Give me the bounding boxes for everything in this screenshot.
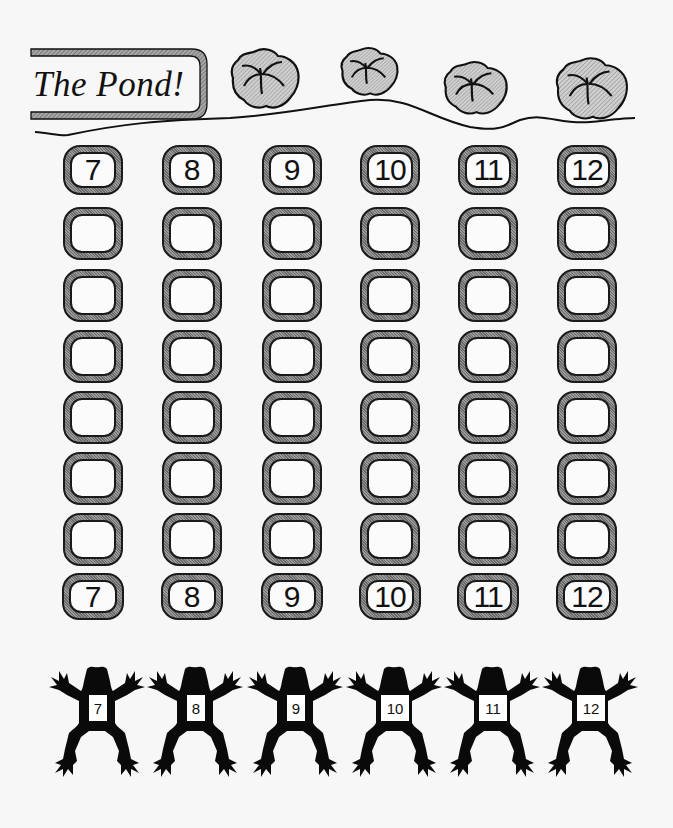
track-space-inner bbox=[564, 398, 610, 437]
track-space[interactable] bbox=[557, 207, 617, 260]
track-space-inner bbox=[169, 276, 215, 315]
track-space-inner bbox=[70, 398, 116, 437]
track-space[interactable] bbox=[262, 330, 322, 383]
track-space[interactable] bbox=[360, 513, 420, 566]
track-space[interactable] bbox=[63, 452, 123, 505]
track-start-label-11[interactable]: 11 bbox=[458, 145, 518, 195]
track-space-inner bbox=[169, 398, 215, 437]
track-space-inner bbox=[367, 398, 413, 437]
track-space-inner: 8 bbox=[169, 152, 215, 188]
track-space[interactable] bbox=[162, 330, 222, 383]
track-space[interactable] bbox=[63, 513, 123, 566]
frog-piece-11[interactable]: 11 bbox=[442, 665, 542, 780]
track-space[interactable] bbox=[162, 513, 222, 566]
track-space-inner bbox=[70, 459, 116, 498]
track-space-inner bbox=[564, 520, 610, 559]
track-end-label-12[interactable]: 12 bbox=[556, 573, 618, 620]
track-space-inner bbox=[269, 214, 315, 253]
track-space[interactable] bbox=[262, 207, 322, 260]
frog-piece-12[interactable]: 12 bbox=[540, 665, 640, 780]
track-space[interactable] bbox=[262, 513, 322, 566]
track-space[interactable] bbox=[360, 452, 420, 505]
track-space-inner: 7 bbox=[70, 152, 116, 188]
track-space-inner: 12 bbox=[564, 152, 610, 188]
frog-icon bbox=[245, 665, 345, 784]
track-space-inner bbox=[367, 520, 413, 559]
frog-icon bbox=[145, 665, 245, 784]
track-space[interactable] bbox=[360, 207, 420, 260]
track-space[interactable] bbox=[162, 391, 222, 444]
track-space[interactable] bbox=[360, 391, 420, 444]
track-space-inner bbox=[70, 520, 116, 559]
track-space[interactable] bbox=[557, 391, 617, 444]
track-space-inner bbox=[564, 214, 610, 253]
track-space-inner bbox=[70, 214, 116, 253]
frog-piece-7[interactable]: 7 bbox=[47, 665, 147, 780]
frog-number-label: 8 bbox=[187, 695, 205, 721]
track-space-inner bbox=[465, 459, 511, 498]
track-space-inner bbox=[169, 337, 215, 376]
track-start-label-12[interactable]: 12 bbox=[557, 145, 617, 195]
track-space-inner bbox=[269, 276, 315, 315]
track-end-label-10[interactable]: 10 bbox=[359, 573, 421, 620]
track-space-inner bbox=[169, 459, 215, 498]
track-space[interactable] bbox=[162, 452, 222, 505]
track-space[interactable] bbox=[262, 452, 322, 505]
track-start-label-7[interactable]: 7 bbox=[63, 145, 123, 195]
lily-pad-icon bbox=[342, 48, 398, 95]
track-space[interactable] bbox=[63, 269, 123, 322]
track-space[interactable] bbox=[360, 269, 420, 322]
track-space[interactable] bbox=[557, 452, 617, 505]
track-space-inner: 10 bbox=[367, 152, 413, 188]
frog-number-label: 7 bbox=[89, 695, 107, 721]
track-space-inner: 11 bbox=[464, 580, 512, 613]
track-space-inner: 11 bbox=[465, 152, 511, 188]
track-space[interactable] bbox=[458, 207, 518, 260]
track-end-label-7[interactable]: 7 bbox=[62, 573, 124, 620]
frog-piece-8[interactable]: 8 bbox=[145, 665, 245, 780]
track-start-label-9[interactable]: 9 bbox=[262, 145, 322, 195]
track-space[interactable] bbox=[63, 207, 123, 260]
track-start-label-8[interactable]: 8 bbox=[162, 145, 222, 195]
track-space-inner bbox=[367, 214, 413, 253]
frog-number-label: 9 bbox=[287, 695, 305, 721]
track-space-inner: 9 bbox=[269, 152, 315, 188]
track-end-label-9[interactable]: 9 bbox=[261, 573, 323, 620]
track-space-inner bbox=[269, 520, 315, 559]
track-space[interactable] bbox=[63, 330, 123, 383]
track-space[interactable] bbox=[458, 452, 518, 505]
track-start-label-10[interactable]: 10 bbox=[360, 145, 420, 195]
frog-number-label: 10 bbox=[381, 695, 409, 721]
frog-piece-9[interactable]: 9 bbox=[245, 665, 345, 780]
track-space-inner bbox=[269, 459, 315, 498]
track-space[interactable] bbox=[458, 269, 518, 322]
track-space[interactable] bbox=[458, 330, 518, 383]
track-space-inner bbox=[70, 276, 116, 315]
frog-icon bbox=[540, 665, 640, 784]
frog-icon bbox=[47, 665, 147, 784]
track-space[interactable] bbox=[162, 269, 222, 322]
lily-pad-icon bbox=[445, 62, 507, 113]
track-end-label-11[interactable]: 11 bbox=[457, 573, 519, 620]
track-space[interactable] bbox=[557, 330, 617, 383]
frog-icon bbox=[344, 665, 444, 784]
track-space[interactable] bbox=[557, 269, 617, 322]
lily-pad-icon bbox=[557, 58, 627, 118]
track-space[interactable] bbox=[63, 391, 123, 444]
track-space[interactable] bbox=[458, 513, 518, 566]
track-space[interactable] bbox=[262, 269, 322, 322]
track-space[interactable] bbox=[557, 513, 617, 566]
frog-piece-10[interactable]: 10 bbox=[344, 665, 444, 780]
track-end-label-8[interactable]: 8 bbox=[161, 573, 223, 620]
track-space-inner: 8 bbox=[168, 580, 216, 613]
track-space-inner bbox=[70, 337, 116, 376]
frog-number-label: 12 bbox=[577, 695, 605, 721]
track-space[interactable] bbox=[162, 207, 222, 260]
track-space-inner bbox=[465, 214, 511, 253]
lily-pad-icon bbox=[232, 49, 299, 107]
track-space[interactable] bbox=[360, 330, 420, 383]
track-space-inner bbox=[564, 459, 610, 498]
track-space[interactable] bbox=[262, 391, 322, 444]
track-space[interactable] bbox=[458, 391, 518, 444]
track-space-inner bbox=[465, 276, 511, 315]
